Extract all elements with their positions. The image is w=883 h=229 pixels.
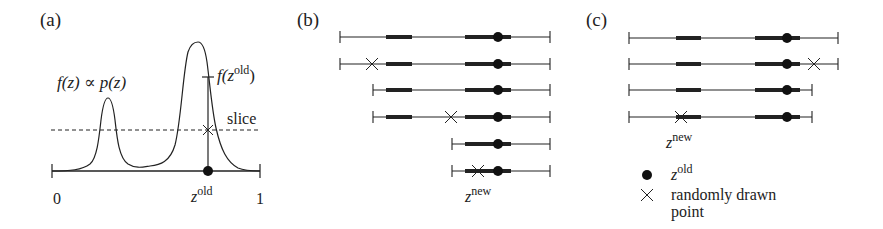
legend-zold-label: zold — [670, 162, 693, 183]
interval-row — [629, 84, 812, 96]
axis-max-label: 1 — [256, 190, 264, 207]
panel-c-label: (c) — [586, 9, 607, 31]
slice-label: slice — [227, 110, 256, 127]
znew-label: znew — [665, 130, 693, 151]
legend-cross-label-line1: randomly drawn — [671, 186, 776, 204]
interval-row — [373, 84, 550, 96]
interval-row — [452, 165, 550, 177]
panel-b: (b) — [297, 9, 550, 205]
legend-cross-icon — [641, 189, 653, 201]
legend-cross-label-line2: point — [671, 203, 704, 221]
panel-a: (a) f(z) ∝ p(z) f(zold) slice 0 1 zold — [40, 9, 264, 207]
fzold-label: f(zold) — [217, 63, 255, 85]
function-label: f(z) ∝ p(z) — [57, 73, 126, 92]
interval-row — [629, 32, 838, 44]
zold-dot-icon — [203, 166, 213, 176]
legend-dot-icon — [642, 170, 652, 180]
density-curve — [52, 42, 260, 171]
interval-row — [340, 31, 550, 43]
interval-row — [629, 58, 838, 70]
panel-c: (c) — [586, 9, 838, 221]
interval-row — [452, 138, 550, 150]
interval-row — [340, 58, 550, 70]
panel-b-label: (b) — [297, 9, 319, 31]
znew-label: znew — [464, 184, 492, 205]
slice-sampling-diagram: (a) f(z) ∝ p(z) f(zold) slice 0 1 zold (… — [0, 0, 883, 229]
panel-a-label: (a) — [40, 9, 61, 31]
axis-min-label: 0 — [53, 190, 61, 207]
interval-row — [373, 111, 550, 123]
zold-axis-label: zold — [190, 184, 213, 205]
interval-row — [629, 111, 812, 123]
legend: zold randomly drawn point — [641, 162, 776, 221]
